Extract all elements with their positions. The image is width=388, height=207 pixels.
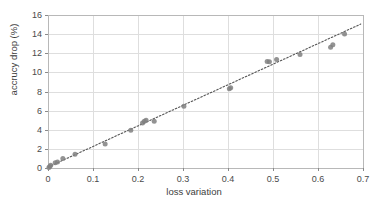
x-tick-label: 0.7 [357,174,370,184]
data-point [152,119,157,124]
y-tick-label: 4 [12,125,42,135]
scatter-chart: 0246810121416 00.10.20.30.40.50.60.7 los… [0,0,388,207]
x-tick-label: 0.4 [222,174,235,184]
data-point [298,52,303,57]
plot-canvas [0,0,388,207]
data-point [128,128,133,133]
x-tick-label: 0.2 [132,174,145,184]
data-point [267,59,272,64]
data-point [48,163,53,168]
axis-ticks [45,16,364,172]
x-tick-label: 0.5 [267,174,280,184]
data-point [274,57,279,62]
x-tick-label: 0.6 [312,174,325,184]
y-tick-label: 2 [12,144,42,154]
x-tick-label: 0 [45,174,50,184]
data-point [228,85,233,90]
x-tick-label: 0.1 [87,174,100,184]
y-axis-title: accrucy drop (%) [8,0,19,120]
data-point [330,42,335,47]
data-point [73,152,78,157]
x-tick-label: 0.3 [177,174,190,184]
data-point [55,160,60,165]
trendline [48,24,361,167]
data-point [144,118,149,123]
x-axis-title: loss variation [0,186,388,197]
data-point [60,156,65,161]
data-point [181,104,186,109]
y-tick-label: 0 [12,163,42,173]
data-point [342,31,347,36]
data-point [103,142,108,147]
